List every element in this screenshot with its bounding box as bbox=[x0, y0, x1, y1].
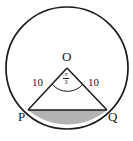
angle-denominator: 3 bbox=[64, 79, 69, 85]
label-center-o: O bbox=[62, 50, 71, 63]
radius-line-op bbox=[28, 68, 67, 110]
label-central-angle: π 3 bbox=[63, 71, 69, 86]
label-point-p: P bbox=[18, 110, 25, 123]
label-right-radius-length: 10 bbox=[88, 77, 99, 88]
label-left-radius-length: 10 bbox=[32, 77, 43, 88]
label-point-q: Q bbox=[108, 110, 117, 123]
radius-line-oq bbox=[67, 68, 107, 110]
geometry-figure: O 10 10 P Q π 3 bbox=[0, 0, 133, 141]
angle-numerator: π bbox=[63, 71, 68, 77]
